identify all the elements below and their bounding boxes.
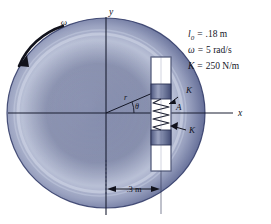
legend-row-2: K=250 N/m xyxy=(187,61,240,71)
point-a-label: A xyxy=(175,102,182,112)
diagram-svg: ω y x r θ A K K xyxy=(0,0,271,224)
theta-label: θ xyxy=(135,102,139,111)
legend-symbol-1: ω xyxy=(188,45,195,55)
legend-row-0: l0=.18 m xyxy=(188,29,228,42)
slider-tube-assembly xyxy=(151,57,171,171)
y-axis-label: y xyxy=(108,7,114,17)
spring-k-lower-label: K xyxy=(188,125,196,135)
x-axis-label: x xyxy=(237,108,243,118)
legend-subscript-0: 0 xyxy=(191,34,195,42)
legend-row-1: ω=5 rad/s xyxy=(188,45,232,55)
legend-value-0: .18 m xyxy=(206,29,228,39)
legend-equals-2: = xyxy=(197,61,202,71)
legend-equals-0: = xyxy=(197,29,202,39)
legend-value-1: 5 rad/s xyxy=(206,45,232,55)
figure-canvas: ω y x r θ A K K xyxy=(0,0,271,224)
svg-text:ω=5 rad/s: ω=5 rad/s xyxy=(188,45,232,55)
legend-value-2: 250 N/m xyxy=(206,61,240,71)
legend-equals-1: = xyxy=(198,45,203,55)
svg-text:l0=.18 m: l0=.18 m xyxy=(188,29,228,42)
svg-text:K=250 N/m: K=250 N/m xyxy=(187,61,240,71)
spring-k-upper-label: K xyxy=(185,85,193,95)
legend-block: l0=.18 m ω=5 rad/s K=250 N/m xyxy=(187,29,240,71)
omega-label: ω xyxy=(61,17,67,27)
legend-symbol-2: K xyxy=(187,61,195,71)
dimension-label: .3 m xyxy=(126,184,142,194)
